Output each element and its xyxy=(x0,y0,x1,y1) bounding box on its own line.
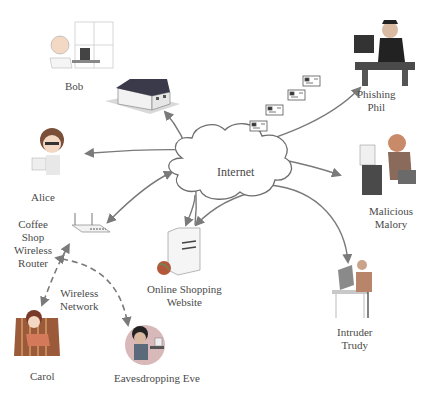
diagram-canvas xyxy=(0,0,443,394)
arrow-cloud-shop-1 xyxy=(186,195,195,225)
node-label-alice: Alice xyxy=(31,191,55,204)
alice-illustration xyxy=(32,128,64,175)
carol-illustration xyxy=(14,310,60,356)
arrow-router-cloud xyxy=(112,172,172,218)
node-label-carol: Carol xyxy=(30,370,54,383)
router-icon xyxy=(72,213,110,232)
node-label-router: Coffee Shop Wireless Router xyxy=(14,218,52,270)
wireless-network-label: Wireless Network xyxy=(60,287,99,313)
phil-illustration xyxy=(354,20,415,86)
server-icon xyxy=(157,228,200,275)
node-label-shop: Online Shopping Website xyxy=(147,283,222,309)
node-label-eve: Eavesdropping Eve xyxy=(114,372,200,385)
node-label-trudy: Intruder Trudy xyxy=(337,326,372,352)
bob-illustration xyxy=(50,22,113,68)
node-label-phil: Phishing Phil xyxy=(357,88,396,114)
envelope-icon xyxy=(288,90,305,100)
envelope-icon xyxy=(266,105,283,115)
eve-illustration xyxy=(125,325,165,365)
arrow-to-trudy xyxy=(270,185,348,262)
house-icon xyxy=(105,79,180,114)
internet-label: Internet xyxy=(217,166,254,179)
network-threat-diagram: Internet Bob Alice Coffee Shop Wireless … xyxy=(0,0,443,394)
node-label-malory: Malicious Malory xyxy=(369,205,413,231)
trudy-illustration xyxy=(332,260,372,318)
envelope-icon xyxy=(303,76,320,86)
envelope-icon xyxy=(250,121,267,131)
malory-illustration xyxy=(360,134,416,195)
node-label-bob: Bob xyxy=(65,80,83,93)
internet-cloud-icon xyxy=(169,124,292,200)
